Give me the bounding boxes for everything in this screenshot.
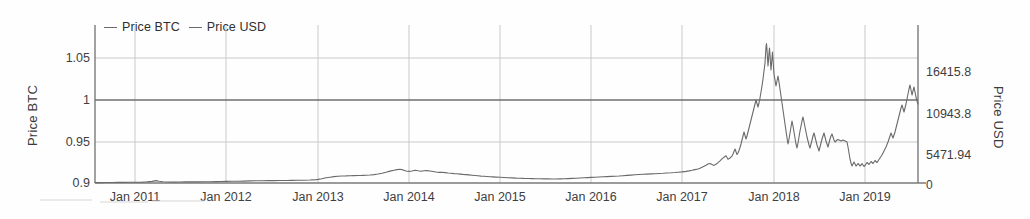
chart-plot-area	[0, 0, 1030, 219]
series-price-usd	[95, 44, 918, 183]
chart-container: Price BTC Price USD Price BTC Price USD …	[0, 0, 1030, 219]
